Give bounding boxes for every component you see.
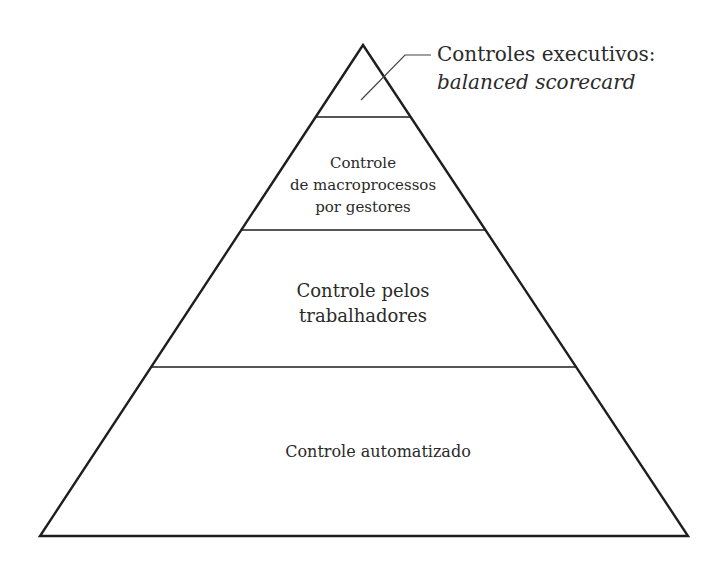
tier-2-line-3: por gestores	[315, 198, 411, 216]
tier-2-line-1: Controle	[330, 154, 396, 172]
callout-line-2: balanced scorecard	[437, 70, 636, 94]
tier-3-line-1: Controle pelos	[296, 280, 429, 301]
tier-2-line-2: de macroprocessos	[290, 176, 436, 194]
control-pyramid-diagram: Controles executivos: balanced scorecard…	[0, 0, 714, 571]
callout-label-italic: balanced scorecard	[437, 70, 636, 94]
tier-2-label: Controle de macroprocessos por gestores	[290, 154, 436, 216]
tier-3-line-2: trabalhadores	[299, 305, 427, 326]
callout-line-1: Controles executivos:	[437, 42, 656, 66]
tier-3-label: Controle pelos trabalhadores	[296, 280, 429, 326]
callout-label: Controles executivos:	[437, 42, 656, 66]
tier-4-label: Controle automatizado	[285, 442, 471, 461]
tier-4-line-1: Controle automatizado	[285, 442, 471, 461]
